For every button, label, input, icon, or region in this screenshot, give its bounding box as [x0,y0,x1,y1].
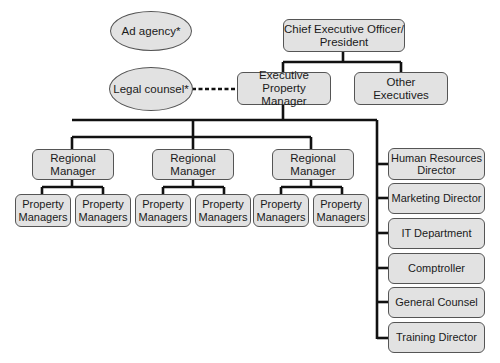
node-label: Property Managers [257,198,306,223]
node-label: Regional Manager [170,152,215,178]
training-director-node: Training Director [388,322,485,353]
node-label: Regional Manager [290,152,335,178]
node-label: Property Managers [317,198,366,223]
node-label: Other Executives [373,76,429,102]
node-label: Legal counsel* [113,83,188,95]
node-label: General Counsel [395,296,478,309]
node-label: Comptroller [408,262,465,275]
node-label: Marketing Director [392,192,482,205]
it-department-node: IT Department [388,218,485,249]
property-managers-node: Property Managers [135,194,191,227]
node-label: Regional Manager [50,152,95,178]
node-label: Training Director [396,331,477,344]
node-label: Ad agency* [122,25,181,37]
node-label: Human Resources Director [391,152,482,177]
marketing-director-node: Marketing Director [388,183,485,214]
hr-director-node: Human Resources Director [388,148,485,180]
property-managers-node: Property Managers [75,194,131,227]
comptroller-node: Comptroller [388,253,485,284]
regional-manager-node: Regional Manager [152,149,234,180]
node-label: Property Managers [199,198,248,223]
general-counsel-node: General Counsel [388,287,485,318]
node-label: Property Managers [139,198,188,223]
other-executives-node: Other Executives [354,72,448,105]
node-label: Chief Executive Officer/ President [284,23,404,49]
node-label: Executive Property Manager [238,69,330,108]
executive-property-manager-node: Executive Property Manager [237,72,331,105]
regional-manager-node: Regional Manager [32,149,114,180]
ceo-node: Chief Executive Officer/ President [283,19,405,52]
node-label: IT Department [401,227,471,240]
property-managers-node: Property Managers [253,194,309,227]
legal-counsel-node: Legal counsel* [109,67,193,111]
property-managers-node: Property Managers [195,194,251,227]
property-managers-node: Property Managers [313,194,369,227]
regional-manager-node: Regional Manager [272,149,354,180]
ad-agency-node: Ad agency* [110,11,192,51]
node-label: Property Managers [19,198,68,223]
node-label: Property Managers [79,198,128,223]
property-managers-node: Property Managers [15,194,71,227]
